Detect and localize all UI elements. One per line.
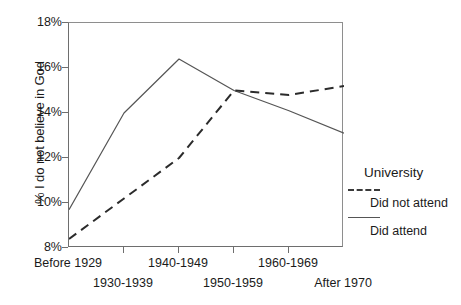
x-axis-tick-label: 1960-1969 — [258, 256, 318, 270]
legend-item-did-attend: Did attend — [348, 214, 461, 242]
y-axis-tick-label: 10% — [2, 195, 62, 209]
series-did-not-attend-line — [69, 86, 344, 239]
plot-lines — [69, 23, 344, 248]
y-axis-tick-label: 8% — [2, 240, 62, 254]
legend-item-label: Did not attend — [370, 196, 448, 210]
plot-area — [68, 22, 343, 247]
x-axis-tick-label: 1950-1959 — [203, 276, 263, 290]
legend-item-label: Did attend — [370, 224, 427, 238]
series-did-attend-line — [69, 59, 344, 210]
line-chart: % I do not believe in God 8%10%12%14%16%… — [0, 0, 461, 305]
x-axis-tick-mark — [178, 247, 179, 253]
y-axis-tick-label: 12% — [2, 150, 62, 164]
x-axis-tick-label: After 1970 — [314, 276, 372, 290]
y-axis-title: % I do not believe in God — [32, 13, 47, 253]
x-axis-tick-mark — [233, 247, 234, 253]
legend-dashed-line-icon — [348, 189, 380, 191]
y-axis-tick-label: 18% — [2, 15, 62, 29]
y-axis-tick-label: 14% — [2, 105, 62, 119]
x-axis-tick-label: 1940-1949 — [148, 256, 208, 270]
x-axis-tick-label: Before 1929 — [34, 256, 102, 270]
x-axis-tick-label: 1930-1939 — [93, 276, 153, 290]
x-axis-tick-mark — [288, 247, 289, 253]
y-axis-tick-mark — [62, 247, 68, 248]
legend-solid-line-icon — [348, 217, 380, 218]
y-axis-tick-label: 16% — [2, 60, 62, 74]
x-axis-tick-mark — [123, 247, 124, 253]
legend: University Did not attend Did attend — [348, 165, 461, 242]
legend-item-did-not-attend: Did not attend — [348, 186, 461, 214]
legend-title: University — [364, 165, 461, 180]
